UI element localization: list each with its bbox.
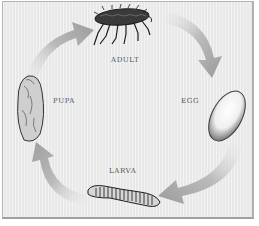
- flea-adult-icon: [94, 4, 152, 45]
- stage-label-adult: ADULT: [111, 56, 139, 64]
- life-cycle-artwork: [0, 0, 259, 226]
- stage-label-larva: LARVA: [109, 167, 136, 175]
- arrow-larva-to-pupa: [32, 142, 90, 206]
- egg-icon: [201, 85, 253, 147]
- arrow-egg-to-larva: [158, 140, 244, 204]
- arrow-pupa-to-adult: [24, 22, 94, 84]
- pupa-icon: [18, 76, 44, 141]
- stage-label-pupa: PUPA: [53, 97, 75, 105]
- arrow-adult-to-egg: [160, 10, 222, 78]
- stage-label-egg: EGG: [181, 97, 199, 105]
- larva-icon: [88, 186, 160, 207]
